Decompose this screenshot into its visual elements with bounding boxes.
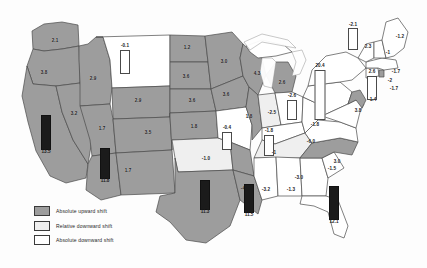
lake-huron-erie xyxy=(292,50,306,76)
bar-ny xyxy=(348,28,358,50)
state-nm xyxy=(116,150,175,195)
value-label-mt: -0.1 xyxy=(121,43,129,48)
legend-label-upward: Absolute upward shift xyxy=(56,208,107,214)
legend-item-downward: Absolute downward shift xyxy=(34,234,166,246)
value-label-ky: -1.8 xyxy=(265,128,273,133)
bar-mt xyxy=(120,50,130,74)
legend-item-relative: Relative downward shift xyxy=(34,220,166,232)
legend-swatch-relative xyxy=(34,221,50,231)
value-label-nv: 3.2 xyxy=(71,111,78,116)
value-label-ny: -2.1 xyxy=(349,22,357,27)
state-fl xyxy=(300,196,348,238)
value-label-nc: 3.0 xyxy=(334,159,341,164)
state-wy xyxy=(112,86,170,119)
value-label-ri: -2 xyxy=(388,78,392,83)
legend-swatch-downward xyxy=(34,235,50,245)
bar-tx xyxy=(200,180,210,210)
value-label-wv: -1.8 xyxy=(311,122,319,127)
value-label-wa: 2.1 xyxy=(52,38,59,43)
value-label-pa: 20.4 xyxy=(316,63,325,68)
value-label-al: -1.3 xyxy=(287,187,295,192)
value-label-az: 11.8 xyxy=(101,178,110,183)
legend-label-relative: Relative downward shift xyxy=(56,223,112,229)
bar-ca xyxy=(41,115,51,150)
value-label-mi: 2.6 xyxy=(279,80,286,85)
value-label-in: -2.5 xyxy=(268,110,276,115)
value-label-ks: 1.8 xyxy=(191,124,198,129)
value-label-fl: 12.1 xyxy=(330,219,339,224)
value-label-il: 1.8 xyxy=(246,114,253,119)
value-label-co: 3.5 xyxy=(145,130,152,135)
value-label-ms: -3.2 xyxy=(262,187,270,192)
value-label-tn: -1 xyxy=(272,150,276,155)
value-label-tx: 11.3 xyxy=(201,209,210,214)
state-wa xyxy=(32,22,79,51)
state-sd xyxy=(170,62,211,89)
map-chart-container: 2.1 3.8 2.9 -0.1 1.2 3.6 3.0 4.3 2.9 3.6… xyxy=(0,0,427,268)
bar-pa xyxy=(315,70,326,120)
legend-label-downward: Absolute downward shift xyxy=(56,237,114,243)
value-label-va: -6.0 xyxy=(307,139,315,144)
value-label-ct: 2.6 xyxy=(369,69,375,74)
bar-mo xyxy=(222,132,232,150)
value-label-sd: 3.6 xyxy=(183,74,190,79)
value-label-nd: 1.2 xyxy=(184,45,191,50)
bar-az xyxy=(100,148,110,179)
value-label-nh: -1 xyxy=(386,50,390,55)
value-label-nj: -1.7 xyxy=(390,86,398,91)
value-label-sc: -1.5 xyxy=(328,166,336,171)
value-label-wy: 2.9 xyxy=(135,98,142,103)
legend: Absolute upward shift Relative downward … xyxy=(34,205,166,249)
value-label-ok: -1.0 xyxy=(202,156,210,161)
legend-item-upward: Absolute upward shift xyxy=(34,205,166,217)
legend-swatch-upward xyxy=(34,206,50,216)
value-label-la: 11.5 xyxy=(245,212,254,217)
bar-la xyxy=(244,184,254,213)
value-label-ma: -1.7 xyxy=(392,69,400,74)
bar-fl xyxy=(329,186,339,220)
value-label-wi: 4.3 xyxy=(254,71,261,76)
value-label-ne: 3.6 xyxy=(189,98,196,103)
value-label-oh: -2.6 xyxy=(288,93,296,98)
value-label-ia: 3.6 xyxy=(223,92,230,97)
state-or xyxy=(27,46,80,86)
value-label-nm: 1.7 xyxy=(125,168,132,173)
bar-oh xyxy=(287,100,297,120)
value-label-ca: 13.5 xyxy=(42,149,51,154)
value-label-md: 3.8 xyxy=(355,108,362,113)
state-co xyxy=(113,117,172,153)
value-label-me: -1.2 xyxy=(396,34,404,39)
value-label-vt: 2.3 xyxy=(365,44,372,49)
state-ri xyxy=(379,70,384,77)
value-label-ut: 1.7 xyxy=(99,126,106,131)
value-label-mn: 3.0 xyxy=(221,59,228,64)
value-label-id: 2.9 xyxy=(90,76,97,81)
value-label-or: 3.8 xyxy=(41,70,48,75)
value-label-mo: -0.4 xyxy=(223,125,231,130)
value-label-ga: -3.0 xyxy=(295,175,303,180)
value-label-de: 1.4 xyxy=(370,97,377,102)
